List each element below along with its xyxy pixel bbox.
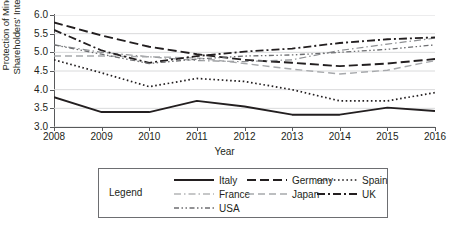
y-tick-label: 6.0: [26, 10, 48, 20]
y-tick-mark: [50, 34, 54, 35]
legend-label: Spain: [362, 175, 388, 186]
legend-item-usa[interactable]: USA: [174, 201, 240, 215]
series-line-italy: [54, 97, 435, 115]
x-tick-label: 2010: [129, 131, 169, 142]
legend-swatch-spain-icon: [317, 175, 357, 185]
x-tick-label: 2014: [320, 131, 360, 142]
legend-swatch-usa-icon: [174, 203, 214, 213]
x-tick-label: 2013: [272, 131, 312, 142]
x-tick-label: 2015: [367, 131, 407, 142]
legend-label: USA: [219, 203, 240, 214]
plot-area: [54, 15, 435, 127]
legend-item-spain[interactable]: Spain: [317, 173, 388, 187]
y-tick-mark: [50, 127, 54, 128]
series-lines: [54, 15, 435, 127]
x-tick-mark: [340, 127, 341, 131]
x-tick-label: 2011: [177, 131, 217, 142]
y-axis-title: Protection of Minority Shareholders' Int…: [0, 0, 26, 87]
x-tick-label: 2009: [82, 131, 122, 142]
chart-figure: Protection of Minority Shareholders' Int…: [0, 0, 449, 227]
legend-item-uk[interactable]: UK: [317, 187, 376, 201]
y-tick-label: 4.5: [26, 66, 48, 76]
legend-swatch-germany-icon: [247, 175, 287, 185]
legend-swatch-japan-icon: [247, 189, 287, 199]
x-tick-mark: [54, 127, 55, 131]
series-line-uk: [54, 30, 435, 63]
y-axis-ticks: 3.03.54.04.55.05.56.0: [26, 0, 48, 227]
y-tick-mark: [50, 71, 54, 72]
legend-label: Japan: [292, 189, 319, 200]
y-axis-title-line2: Shareholders' Interests: [12, 0, 23, 75]
y-tick-mark: [50, 90, 54, 91]
y-tick-mark: [50, 52, 54, 53]
y-tick-label: 5.5: [26, 29, 48, 39]
legend-label: France: [219, 189, 250, 200]
x-tick-mark: [435, 127, 436, 131]
legend-swatch-uk-icon: [317, 189, 357, 199]
y-tick-mark: [50, 108, 54, 109]
legend-item-france[interactable]: France: [174, 187, 250, 201]
y-tick-label: 3.5: [26, 103, 48, 113]
series-line-spain: [54, 60, 435, 101]
chart-legend: Legend ItalyGermanySpainFranceJapanUKUSA: [98, 168, 388, 218]
legend-swatch-france-icon: [174, 189, 214, 199]
x-tick-label: 2008: [34, 131, 74, 142]
x-tick-mark: [149, 127, 150, 131]
series-line-usa: [54, 45, 435, 64]
x-tick-mark: [197, 127, 198, 131]
series-line-germany: [54, 22, 435, 66]
legend-swatch-italy-icon: [174, 175, 214, 185]
y-tick-label: 4.0: [26, 85, 48, 95]
x-tick-mark: [387, 127, 388, 131]
x-tick-label: 2016: [415, 131, 449, 142]
x-tick-mark: [102, 127, 103, 131]
x-axis-title: Year: [0, 146, 449, 157]
legend-label: Italy: [219, 175, 237, 186]
y-tick-mark: [50, 15, 54, 16]
x-tick-mark: [245, 127, 246, 131]
x-tick-label: 2012: [225, 131, 265, 142]
legend-label: UK: [362, 189, 376, 200]
x-tick-mark: [292, 127, 293, 131]
legend-item-japan[interactable]: Japan: [247, 187, 319, 201]
legend-title: Legend: [109, 187, 142, 198]
y-tick-label: 5.0: [26, 47, 48, 57]
legend-item-italy[interactable]: Italy: [174, 173, 237, 187]
